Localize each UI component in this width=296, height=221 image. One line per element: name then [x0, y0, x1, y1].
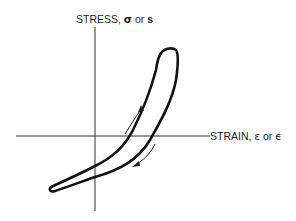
- hysteresis-loop: [50, 48, 178, 191]
- hysteresis-diagram: [0, 0, 296, 221]
- y-axis-label: STRESS, σ or s: [76, 13, 153, 25]
- epsilon-symbol: ε: [254, 130, 260, 142]
- x-axis-connector: or: [263, 130, 272, 142]
- unloading-arrowhead-icon: [132, 161, 140, 167]
- x-axis-title: STRAIN,: [210, 130, 251, 142]
- y-axis-connector: or: [135, 13, 144, 25]
- sigma-symbol: σ: [124, 13, 132, 25]
- y-axis-title: STRESS,: [76, 13, 121, 25]
- s-symbol: s: [147, 13, 153, 25]
- x-axis-label: STRAIN, ε or ϵ: [210, 130, 282, 142]
- epsilon-alt-symbol: ϵ: [275, 130, 281, 142]
